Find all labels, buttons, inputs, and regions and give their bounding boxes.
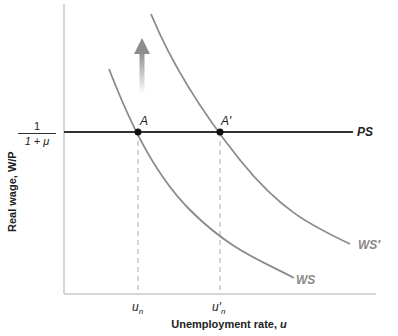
x-tick-un-prime-base: u′	[212, 300, 221, 314]
x-tick-un: un	[132, 300, 143, 316]
x-tick-un-sub: n	[139, 307, 143, 316]
ws-prime-curve	[151, 14, 350, 244]
x-axis-label: Unemployment rate, u	[0, 318, 398, 330]
fraction-numerator: 1	[18, 120, 56, 132]
chart-canvas	[0, 0, 398, 336]
point-a	[135, 129, 142, 136]
ps-label: PS	[357, 125, 373, 139]
shift-up-arrow-icon	[134, 38, 150, 94]
y-tick-fraction: 1 1 + μ	[18, 120, 56, 147]
ws-curve	[109, 69, 294, 278]
x-tick-un-base: u	[132, 300, 139, 314]
fraction-bar	[18, 133, 56, 134]
point-a-prime-label: A′	[221, 114, 231, 128]
point-a-prime	[217, 129, 224, 136]
x-axis-label-text: Unemployment rate,	[171, 318, 280, 330]
y-axis-label: Real wage, W/P	[6, 151, 18, 232]
x-tick-un-prime: u′n	[212, 300, 225, 316]
point-a-label: A	[140, 114, 148, 128]
x-axis-label-var: u	[280, 318, 287, 330]
ws-label: WS	[296, 273, 315, 287]
x-tick-un-prime-sub: n	[221, 307, 225, 316]
fraction-denominator: 1 + μ	[18, 135, 56, 147]
ws-prime-label: WS′	[358, 238, 380, 252]
